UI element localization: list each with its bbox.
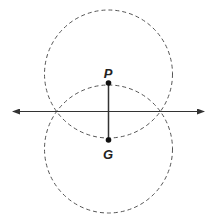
construction-diagram: P G [0, 0, 217, 222]
point-g-label: G [103, 147, 113, 162]
point-g-dot [106, 137, 112, 143]
point-p-dot [106, 80, 112, 86]
point-p-label: P [104, 66, 113, 81]
diagram-canvas: P G [0, 0, 217, 222]
